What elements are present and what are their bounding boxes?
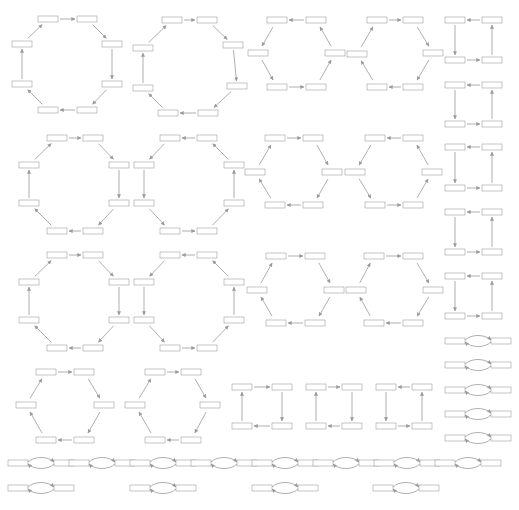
hexagon-cycle-node: [248, 50, 268, 56]
transition-arrow: [213, 26, 227, 40]
bigon-node: [54, 485, 74, 491]
transition-arrow: [317, 179, 328, 198]
octagon-cycle-node: [160, 252, 180, 258]
transition-arrow: [150, 261, 165, 276]
hexagon-cycle-node: [306, 84, 326, 90]
square-cycle-node: [482, 273, 502, 279]
bigon-node: [481, 460, 501, 466]
square-cycle-node: [445, 17, 465, 23]
octagon-cycle-node: [47, 228, 67, 234]
bigon-node: [445, 411, 465, 417]
octagon-cycle-node: [197, 345, 217, 351]
transition-arrow: [361, 61, 373, 80]
transition-arrow: [417, 27, 429, 46]
transition-arrow: [360, 263, 371, 283]
transition-arrow: [455, 458, 481, 463]
transition-arrow: [465, 433, 491, 438]
transition-arrow: [211, 464, 237, 469]
transition-arrow: [195, 379, 206, 398]
transition-arrow: [98, 326, 113, 342]
transition-arrow: [93, 90, 107, 104]
hexagon-cycle-node: [365, 202, 385, 208]
hexagon-cycle-node: [247, 287, 267, 293]
hexagon-cycle-node: [403, 253, 423, 259]
bigon-node: [191, 460, 211, 466]
transition-arrow: [259, 179, 271, 198]
transition-arrow: [465, 385, 491, 390]
transition-arrow: [28, 90, 43, 105]
transition-arrow: [149, 209, 164, 225]
octagon-cycle-node: [83, 228, 103, 234]
square-cycle-node: [342, 423, 362, 429]
hexagon-cycle-node: [403, 17, 423, 23]
transition-arrow: [150, 464, 176, 469]
transition-arrow: [28, 25, 42, 39]
transition-arrow: [213, 326, 229, 342]
hexagon-cycle-node: [265, 202, 285, 208]
transition-arrow: [417, 297, 429, 316]
transition-arrow: [465, 360, 491, 365]
bigon-node: [130, 460, 150, 466]
square-cycle-node: [272, 384, 292, 390]
hexagon-cycle-node: [305, 253, 325, 259]
transition-arrow: [35, 326, 52, 343]
hexagon-cycle-node: [306, 17, 326, 23]
nodes-layer: [8, 16, 511, 491]
bigon-node: [491, 362, 511, 368]
transition-arrow: [149, 26, 166, 43]
bigon-node: [435, 460, 455, 466]
bigon-node: [8, 485, 28, 491]
transition-arrow: [465, 342, 491, 347]
hexagon-cycle-node: [36, 437, 56, 443]
octagon-cycle-node: [47, 252, 67, 258]
square-cycle-node: [482, 17, 502, 23]
transition-arrow: [333, 464, 359, 469]
square-cycle-node: [445, 185, 465, 191]
transition-arrow: [272, 464, 298, 469]
transition-arrow: [320, 60, 331, 80]
transition-arrow: [28, 458, 54, 463]
octagon-cycle-node: [224, 200, 244, 206]
bigon-node: [69, 460, 89, 466]
bigon-node: [445, 362, 465, 368]
square-cycle-node: [482, 185, 502, 191]
bigon-node: [491, 435, 511, 441]
hexagon-cycle-node: [265, 135, 285, 141]
square-cycle-node: [232, 384, 252, 390]
hexagon-cycle-node: [347, 51, 367, 57]
octagon-cycle-node: [224, 317, 244, 323]
square-cycle-node: [376, 423, 396, 429]
transition-arrow: [93, 25, 107, 39]
transition-arrow: [211, 458, 237, 463]
bigon-node: [491, 411, 511, 417]
transition-arrow: [417, 60, 429, 80]
transition-arrow: [262, 60, 273, 80]
octagon-cycle-node: [160, 345, 180, 351]
transition-arrow: [261, 297, 272, 316]
octagon-cycle-node: [160, 228, 180, 234]
hexagon-cycle-node: [403, 84, 423, 90]
hexagon-cycle-node: [266, 253, 286, 259]
square-cycle-node: [445, 313, 465, 319]
transition-arrow: [417, 145, 428, 165]
bigon-node: [298, 485, 318, 491]
square-cycle-node: [412, 423, 432, 429]
transition-arrow: [28, 483, 54, 488]
transition-arrow: [359, 179, 371, 198]
hexagon-cycle-node: [181, 437, 201, 443]
bigon-node: [419, 485, 439, 491]
hexagon-cycle-node: [346, 287, 366, 293]
transition-arrow: [88, 412, 100, 433]
octagon-cycle-node: [47, 135, 67, 141]
transition-arrow: [465, 366, 491, 371]
transition-arrow: [272, 489, 298, 494]
square-cycle-node: [482, 144, 502, 150]
transition-arrow: [213, 144, 229, 160]
square-cycle-node: [445, 249, 465, 255]
hexagon-cycle-node: [267, 17, 287, 23]
octagon-cycle-node: [197, 252, 217, 258]
transition-arrow: [150, 483, 176, 488]
transition-arrow: [139, 412, 151, 433]
square-cycle-node: [232, 423, 252, 429]
hexagon-cycle-node: [423, 50, 443, 56]
